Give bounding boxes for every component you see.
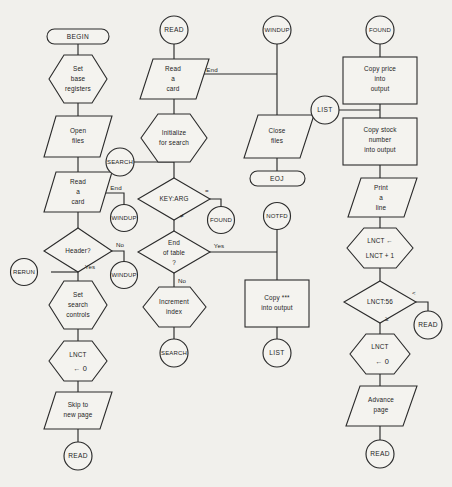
node-initialize-for-search[interactable]: Initialize for search (141, 114, 207, 162)
column-found: FOUND Copy price into output LIST Copy s… (311, 16, 442, 468)
node-lnct-increment[interactable]: LNCT ← LNCT + 1 (347, 228, 413, 268)
node-header-label: Header? (65, 247, 91, 254)
node-lnct-zero1-line2: ← 0 (73, 364, 87, 373)
node-read-a-card-1[interactable]: Read a card (44, 172, 112, 212)
column-begin: BEGIN Set base registers Open files Read… (11, 29, 138, 470)
node-lnct-compare-decision[interactable]: LNCT:56 (344, 281, 416, 323)
node-read-connector-4[interactable]: READ (366, 440, 394, 468)
node-notfd-label: NOTFD (266, 213, 288, 219)
node-list-connector-2[interactable]: LIST (263, 339, 291, 367)
node-lnct-zero2-line2: ← 0 (375, 357, 389, 366)
node-eoj[interactable]: EOJ (250, 171, 305, 186)
node-close-line2: files (271, 137, 283, 144)
edge-label-less-than: < (412, 289, 416, 296)
node-found1-label: FOUND (210, 217, 233, 223)
hexagon-shape (347, 228, 413, 268)
node-found-connector-1[interactable]: FOUND (208, 207, 235, 234)
node-key-arg-label: KEY:ARG (159, 195, 188, 202)
node-print-line1: Print (374, 184, 388, 191)
node-eoj-label: EOJ (270, 175, 284, 182)
node-read-a-card-2[interactable]: Read a card (140, 59, 209, 99)
node-open-files-line2: files (72, 137, 84, 144)
node-open-files[interactable]: Open files (44, 116, 112, 157)
node-lnct-zero-2[interactable]: LNCT ← 0 (350, 334, 410, 374)
node-lnct-zero-1[interactable]: LNCT ← 0 (49, 341, 107, 381)
node-eot-line3: ? (172, 259, 176, 266)
node-read4-label: READ (370, 450, 390, 457)
node-search-connector-1[interactable]: SEARCH (106, 148, 134, 176)
node-skip-line1: Skip to (68, 401, 89, 409)
node-header-decision[interactable]: Header? (44, 228, 112, 272)
node-set-search-controls[interactable]: Set search controls (49, 281, 107, 329)
node-windup2-label: WINDUP (111, 272, 136, 278)
node-close-line1: Close (268, 127, 285, 134)
edge-label-end-1: End (110, 184, 122, 191)
node-begin[interactable]: BEGIN (47, 29, 109, 44)
node-list1-label: LIST (317, 106, 332, 113)
node-end-of-table-decision[interactable]: End of table ? (138, 231, 210, 273)
node-list2-label: LIST (269, 349, 284, 356)
node-increment-line2: index (166, 308, 183, 315)
edge-label-greater-equal: ≥ (385, 315, 389, 322)
node-begin-label: BEGIN (67, 33, 89, 40)
link-readcard-end-to-windup (105, 193, 124, 205)
node-copy-stock-line1: Copy stock (363, 126, 397, 134)
node-set-base-line1: Set (73, 65, 83, 72)
node-lnct-zero2-line1: LNCT (371, 343, 388, 350)
node-read-connector-2[interactable]: READ (160, 16, 188, 44)
node-windup-connector-2[interactable]: WINDUP (111, 262, 138, 289)
edge-label-no-2: No (178, 277, 187, 284)
node-close-files[interactable]: Close files (244, 115, 314, 158)
node-print-a-line[interactable]: Print a line (348, 178, 417, 217)
node-eot-line1: End (168, 239, 180, 246)
node-init-line1: Initialize (162, 129, 187, 136)
node-init-line2: for search (159, 139, 189, 146)
node-lnct-inc-line2: LNCT + 1 (366, 252, 395, 259)
node-set-base-registers[interactable]: Set base registers (49, 55, 107, 103)
node-copy-stock-line3: into output (364, 146, 396, 154)
node-increment-line1: Increment (159, 298, 189, 305)
node-list-connector-1[interactable]: LIST (311, 96, 339, 124)
edge-label-yes-1: Yes (85, 263, 96, 270)
node-copy-stock-line2: number (369, 136, 392, 143)
node-read1-label: READ (68, 452, 88, 459)
node-copy-price-into-output[interactable]: Copy price into output (343, 57, 417, 104)
node-advance-page[interactable]: Advance page (346, 386, 417, 426)
node-found-connector-main[interactable]: FOUND (366, 16, 394, 44)
node-notfd-connector[interactable]: NOTFD (264, 203, 291, 230)
node-copy-stars-line1: Copy *** (264, 294, 290, 302)
node-read-connector-3[interactable]: READ (414, 311, 442, 339)
node-read-card1-line1: Read (70, 178, 86, 185)
node-print-line3: line (376, 204, 387, 211)
node-search1-label: SEARCH (107, 159, 133, 165)
node-found-main-label: FOUND (369, 27, 392, 33)
node-rerun-connector[interactable]: RERUN (11, 259, 38, 286)
node-search-connector-2[interactable]: SEARCH (160, 339, 188, 367)
node-lnct-inc-line1: LNCT ← (367, 237, 393, 244)
node-lnct-cmp-label: LNCT:56 (367, 298, 393, 305)
node-skip-to-new-page[interactable]: Skip to new page (44, 392, 112, 429)
node-read-card2-line2: a (171, 75, 175, 82)
node-rerun-label: RERUN (13, 269, 35, 275)
node-windup-main-label: WINDUP (264, 27, 289, 33)
node-set-base-line2: base (71, 75, 86, 82)
node-windup1-label: WINDUP (111, 215, 136, 221)
node-windup-connector-1[interactable]: WINDUP (111, 205, 138, 232)
hexagon-shape (49, 341, 107, 381)
node-increment-index[interactable]: Increment index (143, 287, 206, 327)
node-copy-price-line1: Copy price (364, 65, 396, 73)
edge-label-not-equals: ≠ (180, 212, 184, 219)
column-windup: WINDUP Close files EOJ NOTFD Copy *** in… (244, 16, 314, 367)
node-read-connector-1[interactable]: READ (64, 442, 92, 470)
node-windup-connector-main[interactable]: WINDUP (263, 16, 291, 44)
node-read3-label: READ (418, 321, 438, 328)
node-read2-label: READ (164, 26, 184, 33)
node-copy-stars-into-output[interactable]: Copy *** into output (245, 280, 309, 327)
edge-label-end-2: End (206, 66, 218, 73)
node-read-card2-line1: Read (165, 65, 181, 72)
node-copy-stock-number-into-output[interactable]: Copy stock number into output (343, 118, 417, 165)
node-set-search-line2: search (68, 301, 88, 308)
node-key-arg-decision[interactable]: KEY:ARG (138, 178, 210, 220)
node-advance-line2: page (374, 406, 389, 414)
hexagon-shape (350, 334, 410, 374)
